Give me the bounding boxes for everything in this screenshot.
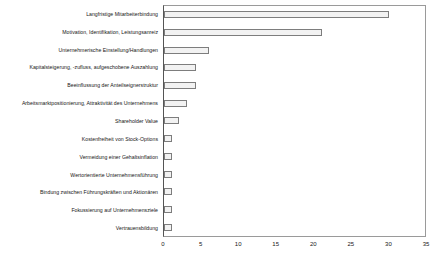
bar-row xyxy=(164,165,425,183)
bar-row xyxy=(164,183,425,201)
bar-chart: Langfristige Mitarbeiterbindung Motivati… xyxy=(0,0,440,266)
category-label: Beeinflussung der Anteilseignerstruktur xyxy=(0,76,161,94)
x-tick-label: 10 xyxy=(235,240,242,248)
bar-row xyxy=(164,77,425,95)
category-label: Kapitalsteigerung, -zufluss, aufgeschobe… xyxy=(0,59,161,77)
x-tick-label: 0 xyxy=(161,240,164,248)
bar-row xyxy=(164,24,425,42)
category-axis-labels: Langfristige Mitarbeiterbindung Motivati… xyxy=(0,5,161,237)
category-label: Wertorientierte Unternehmensführung xyxy=(0,166,161,184)
bar-row xyxy=(164,130,425,148)
x-tick-label: 25 xyxy=(348,240,355,248)
category-label: Langfristige Mitarbeiterbindung xyxy=(0,5,161,23)
bar-row xyxy=(164,59,425,77)
bar xyxy=(164,171,172,178)
bar-row xyxy=(164,41,425,59)
x-axis-ticks: 05101520253035 xyxy=(163,237,426,253)
bar xyxy=(164,64,196,71)
category-label: Vermeidung einer Gehaltsinflation xyxy=(0,148,161,166)
bar-row xyxy=(164,94,425,112)
plot-area xyxy=(163,5,426,237)
bar xyxy=(164,188,172,195)
x-tick-label: 20 xyxy=(310,240,317,248)
category-label: Shareholder Value xyxy=(0,112,161,130)
category-label: Kostenfreiheit von Stock-Options xyxy=(0,130,161,148)
bar xyxy=(164,100,187,107)
bar xyxy=(164,47,209,54)
bar xyxy=(164,11,389,18)
bar-row xyxy=(164,6,425,24)
category-label: Vertrauensbildung xyxy=(0,219,161,237)
bar xyxy=(164,135,172,142)
bar xyxy=(164,206,172,213)
category-label: Fokussierung auf Unternehmensziele xyxy=(0,201,161,219)
bar-row xyxy=(164,112,425,130)
x-tick-label: 5 xyxy=(199,240,202,248)
bar xyxy=(164,29,322,36)
x-tick-label: 30 xyxy=(385,240,392,248)
bar xyxy=(164,224,172,231)
bar-row xyxy=(164,218,425,236)
x-tick-label: 15 xyxy=(272,240,279,248)
category-label: Bindung zwischen Führungskräften und Akt… xyxy=(0,183,161,201)
bar xyxy=(164,117,179,124)
bar xyxy=(164,82,196,89)
category-label: Arbeitsmarktpositionierung, Attraktivitä… xyxy=(0,94,161,112)
bar-row xyxy=(164,201,425,219)
bars-container xyxy=(164,6,425,236)
x-tick-label: 35 xyxy=(423,240,430,248)
bar-row xyxy=(164,148,425,166)
category-label: Unternehmerische Einstellung/Handlungen xyxy=(0,41,161,59)
bar xyxy=(164,153,172,160)
category-label: Motivation, Identifikation, Leistungsanr… xyxy=(0,23,161,41)
